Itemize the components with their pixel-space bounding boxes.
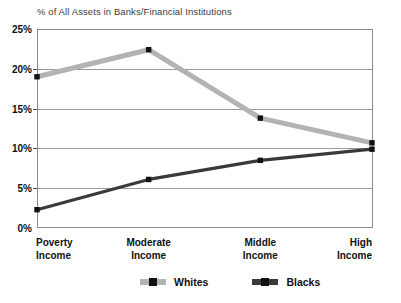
x-axis-label-line: Moderate <box>109 236 189 249</box>
y-tick-mark <box>33 188 37 189</box>
legend-swatch-icon <box>252 279 278 285</box>
chart-legend: WhitesBlacks <box>140 276 320 288</box>
x-axis-label-2: MiddleIncome <box>220 236 300 262</box>
y-tick-mark <box>33 148 37 149</box>
legend-swatch-icon <box>140 279 166 285</box>
y-tick-label: 0% <box>18 223 32 234</box>
x-axis-label-line: Middle <box>220 236 300 249</box>
x-axis-label-line: Income <box>220 249 300 262</box>
y-tick-label: 10% <box>12 143 32 154</box>
y-tick-mark <box>33 109 37 110</box>
legend-label: Whites <box>174 276 208 288</box>
y-tick-label: 25% <box>12 24 32 35</box>
gridline <box>38 69 372 70</box>
y-tick-label: 20% <box>12 63 32 74</box>
x-axis-label-line: Income <box>36 249 73 262</box>
x-axis-label-1: ModerateIncome <box>109 236 189 262</box>
y-tick-label: 15% <box>12 103 32 114</box>
x-axis-label-line: Income <box>109 249 189 262</box>
x-axis-label-line: High <box>312 236 372 249</box>
x-axis-label-line: Poverty <box>36 236 73 249</box>
gridline <box>38 188 372 189</box>
chart-page: % of All Assets in Banks/Financial Insti… <box>0 0 401 303</box>
gridline <box>38 109 372 110</box>
chart-title: % of All Assets in Banks/Financial Insti… <box>37 6 232 17</box>
x-axis-label-line: Income <box>312 249 372 262</box>
x-axis-label-3: HighIncome <box>312 236 372 262</box>
x-axis-label-0: PovertyIncome <box>36 236 73 262</box>
legend-item-blacks[interactable]: Blacks <box>252 276 320 288</box>
gridline <box>38 148 372 149</box>
y-tick-mark <box>33 69 37 70</box>
y-tick-label: 5% <box>18 183 32 194</box>
plot-area <box>37 29 373 228</box>
legend-label: Blacks <box>286 276 320 288</box>
legend-item-whites[interactable]: Whites <box>140 276 208 288</box>
